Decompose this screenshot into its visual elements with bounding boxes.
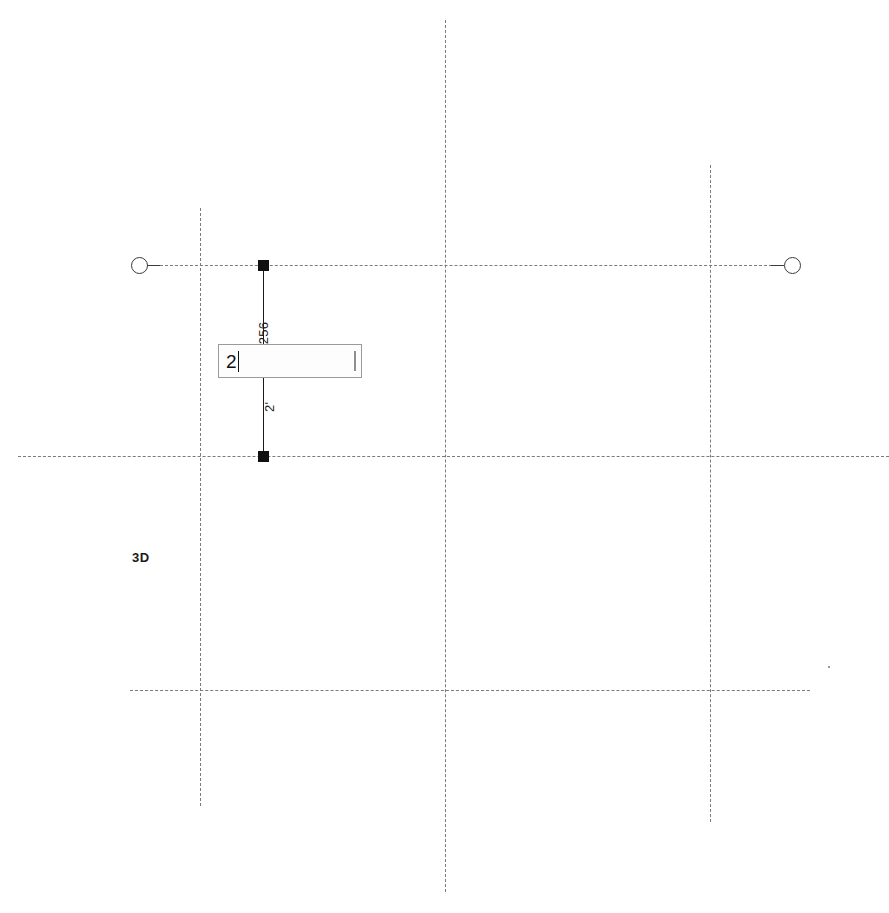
dimension-input-value: 2 [226,352,237,371]
canvas-artifact-dot [828,666,830,668]
grid-bubble-right-stub-icon [771,265,784,266]
wall-endpoint-end[interactable] [258,451,269,462]
grid-line-top[interactable] [150,265,782,266]
view-label-3d: 3D [132,550,150,565]
grid-bubble-left-stub-icon [147,265,160,266]
wall-endpoint-start[interactable] [258,260,269,271]
dimension-input-field[interactable]: 2 [218,344,362,378]
grid-bubble-left[interactable] [131,257,148,274]
grid-bubble-right[interactable] [784,257,801,274]
grid-line-middle[interactable] [18,456,889,457]
text-cursor-icon [238,351,239,372]
grid-line-right[interactable] [710,165,711,822]
grid-line-bottom[interactable] [130,690,810,691]
drawing-canvas[interactable]: /256 2' 2 3D [0,0,889,913]
input-resize-grip-icon[interactable] [354,351,356,371]
dimension-lower-label: 2' [262,402,277,412]
grid-line-left[interactable] [200,208,201,806]
